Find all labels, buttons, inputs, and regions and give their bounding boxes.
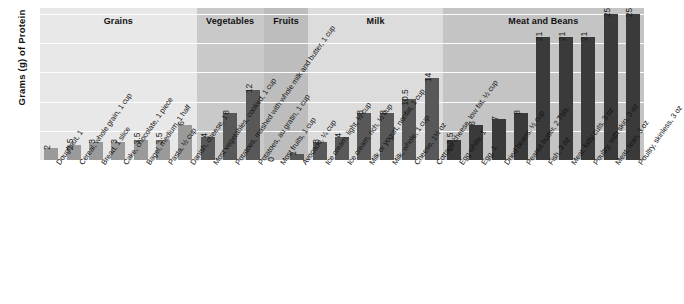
bar-value-label: 21 [535, 32, 544, 41]
bar-value-label: 12 [244, 84, 253, 93]
bar-value-label: 7 [490, 116, 499, 121]
bar-slot: 2 [40, 8, 62, 160]
bar-value-label: 25 [624, 8, 633, 17]
bar-value-label: 21 [557, 32, 566, 41]
y-axis-title: Grams (g) of Protein [16, 0, 27, 123]
bar-value-label: 14 [423, 72, 432, 81]
bar-value-label: 2 [43, 145, 52, 150]
bar-value-label: 25 [602, 8, 611, 17]
x-axis-tick-labels: Doughnut, 1Cereal, whole grain, 1 cupBre… [40, 162, 644, 302]
bar-value-label: 21 [580, 32, 589, 41]
bar-value-label: 8 [513, 110, 522, 115]
